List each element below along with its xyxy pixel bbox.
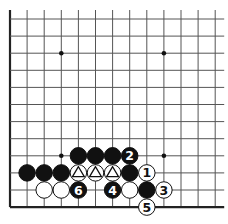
white-stone: [36, 182, 53, 199]
star-point: [162, 51, 167, 56]
black-stone: [53, 165, 70, 182]
move-number: 1: [142, 165, 151, 180]
star-point: [59, 154, 64, 159]
black-stone: 4: [104, 182, 121, 199]
black-stone: [70, 148, 87, 165]
white-stone: 5: [139, 199, 156, 216]
star-point: [162, 154, 167, 159]
black-stone: 6: [70, 182, 87, 199]
white-stone: [53, 182, 70, 199]
go-board: 216435: [0, 0, 228, 224]
black-stone: [36, 165, 53, 182]
move-number: 5: [142, 200, 151, 215]
move-number: 6: [74, 183, 83, 198]
black-stone: [139, 182, 156, 199]
black-stone: [87, 148, 104, 165]
black-stone: 2: [121, 148, 138, 165]
white-stone: [70, 165, 87, 182]
move-number: 4: [108, 183, 117, 198]
white-stone: [87, 165, 104, 182]
black-stone: [19, 165, 35, 182]
white-stone: 3: [156, 182, 173, 199]
black-stone: [121, 165, 138, 182]
move-number: 2: [125, 148, 134, 163]
move-number: 3: [160, 183, 169, 198]
white-stone: [121, 182, 138, 199]
black-stone: [104, 148, 121, 165]
white-stone: [104, 165, 121, 182]
star-point: [59, 51, 64, 56]
white-stone: 1: [139, 165, 156, 182]
